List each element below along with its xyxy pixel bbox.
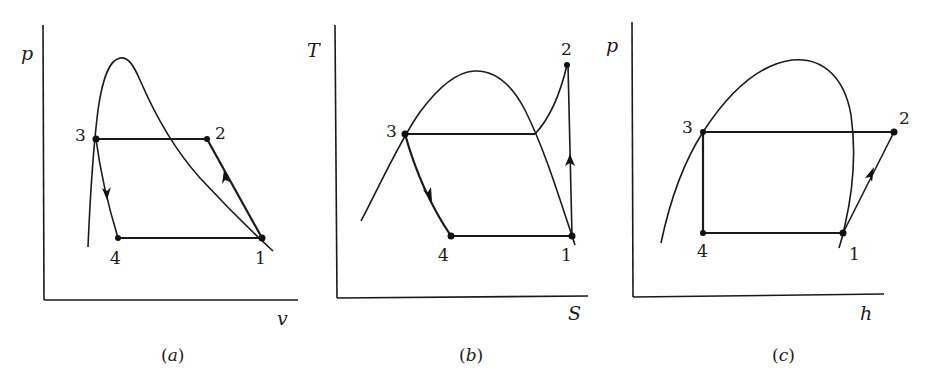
panel-a-caption: (a) xyxy=(161,345,184,365)
panel-a-line-3-4 xyxy=(96,139,118,238)
panel-b-point-3 xyxy=(402,131,409,138)
panel-a-y-axis xyxy=(43,25,44,300)
panel-b-point-4 xyxy=(448,233,455,240)
panel-c-x-label: h xyxy=(860,302,872,324)
panel-b-line-1-2 xyxy=(568,65,572,236)
panel-b-label-1: 1 xyxy=(561,245,572,265)
panel-a-label-4: 4 xyxy=(110,248,121,268)
panel-b-point-1 xyxy=(569,233,576,240)
panel-c-x-axis xyxy=(633,294,884,297)
panel-c-saturation-dome xyxy=(661,60,853,248)
panel-c: p h 3 2 4 1 (c) xyxy=(606,22,910,365)
panel-c-label-3: 3 xyxy=(682,117,693,137)
panel-c-label-4: 4 xyxy=(697,241,708,261)
panel-b-line-3-4 xyxy=(405,134,451,236)
panel-b-saturation-dome xyxy=(361,71,575,245)
panel-a-line-2-1 xyxy=(207,139,262,238)
panel-c-line-1-2 xyxy=(843,132,894,233)
panel-c-label-1: 1 xyxy=(849,244,860,264)
panel-a-label-1: 1 xyxy=(255,248,266,268)
panel-a-y-label: p xyxy=(21,42,33,64)
panel-b-label-3: 3 xyxy=(386,121,397,141)
panel-b-label-2: 2 xyxy=(561,39,572,59)
panel-c-caption: (c) xyxy=(772,345,795,365)
panel-b-y-axis xyxy=(335,25,337,298)
panel-c-label-2: 2 xyxy=(899,108,910,128)
panel-b-label-4: 4 xyxy=(438,245,449,265)
panel-a-label-3: 3 xyxy=(75,125,86,145)
panel-b-x-label: S xyxy=(568,302,581,324)
panel-a-label-2: 2 xyxy=(215,123,226,143)
panel-c-point-3 xyxy=(700,129,706,135)
panel-a-saturation-dome xyxy=(88,58,273,251)
panel-a-arrow-down-icon xyxy=(102,187,111,200)
panel-b-caption: (b) xyxy=(459,345,483,365)
panel-b: T S 3 2 4 1 (b) xyxy=(307,25,588,365)
thermo-cycle-figure: p v 3 2 4 1 (a) T S xyxy=(0,0,925,389)
panel-a-point-3 xyxy=(93,136,100,143)
panel-b-point-2 xyxy=(564,62,570,68)
panel-c-y-axis xyxy=(632,22,633,297)
panel-b-x-axis xyxy=(337,296,588,298)
panel-a-point-2 xyxy=(204,136,210,142)
panel-a-point-4 xyxy=(115,235,121,241)
panel-a: p v 3 2 4 1 (a) xyxy=(21,25,298,365)
panel-a-x-label: v xyxy=(277,307,288,329)
panel-b-superheat-curve xyxy=(535,65,567,134)
panel-c-point-2 xyxy=(891,129,898,136)
panel-c-point-1 xyxy=(840,230,847,237)
panel-c-point-4 xyxy=(700,230,706,236)
panel-a-point-1 xyxy=(259,235,266,242)
panel-b-y-label: T xyxy=(307,39,321,61)
panel-c-y-label: p xyxy=(606,34,618,56)
